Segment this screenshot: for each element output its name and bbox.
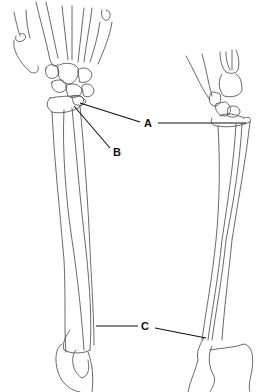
label-b: B (113, 147, 121, 158)
anatomy-diagram: A B C (0, 0, 265, 392)
leader-a-left (80, 103, 140, 122)
leader-lines (74, 103, 246, 338)
left-forearm (47, 96, 94, 392)
label-c: C (141, 321, 149, 332)
right-forearm (188, 117, 253, 392)
label-a: A (144, 118, 152, 129)
leader-c-right (155, 328, 206, 338)
bone-drawing (0, 0, 265, 392)
left-hand (14, 2, 112, 105)
right-hand (186, 50, 244, 118)
leader-b (74, 106, 110, 148)
